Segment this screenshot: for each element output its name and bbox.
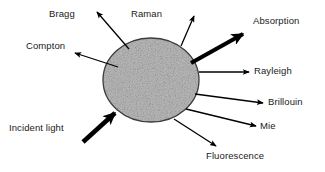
label-raman: Raman: [131, 8, 162, 19]
scattering-particle: [100, 35, 204, 127]
raman-arrow: [181, 16, 194, 46]
label-bragg: Bragg: [49, 8, 75, 19]
label-brillouin: Brillouin: [268, 96, 303, 107]
label-rayleigh: Rayleigh: [254, 65, 292, 76]
scattering-diagram: Bragg Raman Absorption Compton Rayleigh …: [0, 0, 325, 172]
label-fluorescence: Fluorescence: [206, 150, 264, 161]
fluorescence-arrow: [174, 119, 216, 146]
bragg-arrow: [97, 12, 129, 49]
brillouin-arrow: [195, 94, 263, 103]
incident-light-arrow: [83, 113, 115, 142]
label-mie: Mie: [260, 120, 276, 131]
mie-arrow: [186, 109, 256, 126]
label-compton: Compton: [26, 40, 65, 51]
label-absorption: Absorption: [253, 15, 299, 26]
label-incident-light: Incident light: [9, 122, 64, 133]
absorption-arrow: [191, 34, 243, 63]
